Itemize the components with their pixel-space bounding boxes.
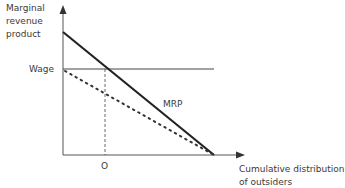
y-axis-label-2: revenue: [6, 15, 43, 27]
y-axis-label-3: product: [6, 28, 41, 40]
mrp-line: [63, 32, 214, 155]
o-label: O: [101, 160, 108, 172]
dotted-mrp-line: [65, 71, 214, 155]
y-axis-label-1: Marginal: [6, 2, 45, 14]
y-axis-arrow-icon: [60, 5, 67, 14]
x-axis-label-2: of outsiders: [239, 176, 292, 188]
wage-label: Wage: [29, 63, 54, 75]
x-axis-arrow-icon: [236, 152, 245, 159]
x-axis-label-1: Cumulative distribution: [239, 163, 345, 175]
mrp-label: MRP: [163, 98, 182, 110]
